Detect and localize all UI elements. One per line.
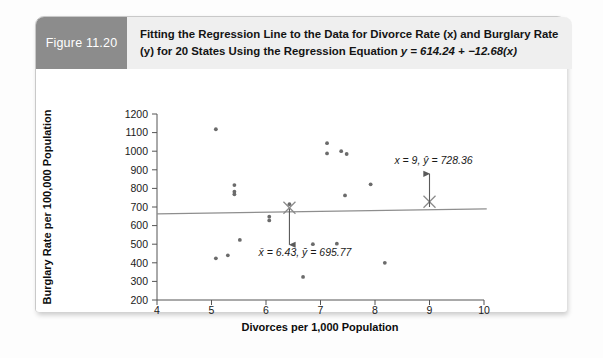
y-tick-label: 400: [130, 257, 148, 269]
y-tick-label: 800: [130, 182, 148, 194]
x-axis-ticks: 45678910: [154, 300, 490, 316]
caption-text-2: (y) for 20 States Using the Regression E…: [140, 45, 401, 57]
y-tick-label: 300: [130, 275, 148, 287]
regression-line: [157, 209, 487, 214]
data-point: [383, 261, 387, 265]
x-tick-label: 6: [263, 304, 269, 316]
data-point: [214, 256, 218, 260]
mean-annotation-x: x̄ = 6.43,: [258, 246, 300, 258]
prediction-annotation-x: x = 9,: [393, 154, 420, 166]
x-tick-label: 4: [154, 304, 160, 316]
caption-line-2: (y) for 20 States Using the Regression E…: [140, 43, 558, 60]
data-point: [343, 194, 347, 198]
regression-line-path: [157, 209, 487, 214]
caption-text-1: Fitting the Regression Line to the Data …: [140, 28, 558, 40]
scatter-plot: 200300400500600700800900100011001200 456…: [36, 69, 567, 337]
y-axis-ticks: 200300400500600700800900100011001200: [125, 108, 157, 306]
x-tick-label: 8: [372, 304, 378, 316]
figure-number-badge: Figure 11.20: [36, 17, 127, 69]
data-point: [301, 275, 305, 279]
page-background: Figure 11.20 Fitting the Regression Line…: [0, 0, 603, 358]
mean-annotation-label: x̄ = 6.43, ȳ = 695.77: [258, 246, 353, 258]
x-tick-label: 7: [318, 304, 324, 316]
figure-card: Figure 11.20 Fitting the Regression Line…: [35, 16, 566, 312]
data-point: [369, 182, 373, 186]
data-point: [238, 238, 242, 242]
prediction-annotation-y: ŷ = 728.36: [420, 154, 472, 166]
y-tick-label: 500: [130, 238, 148, 250]
y-tick-label: 200: [130, 294, 148, 306]
y-tick-label: 1100: [125, 126, 148, 138]
y-tick-label: 1200: [125, 108, 149, 120]
mean-annotation-y: ȳ = 695.77: [299, 246, 352, 258]
data-point: [267, 215, 271, 219]
data-point: [325, 152, 329, 156]
x-tick-label: 9: [427, 304, 433, 316]
y-tick-label: 900: [130, 164, 148, 176]
caption-equation: y = 614.24 + −12.68(x): [401, 45, 517, 57]
figure-number-label: Figure 11.20: [46, 36, 118, 50]
x-tick-label: 10: [478, 304, 490, 316]
data-point: [345, 152, 349, 156]
y-tick-label: 1000: [125, 145, 149, 157]
figure-caption: Fitting the Regression Line to the Data …: [127, 17, 572, 69]
y-tick-label: 600: [130, 219, 148, 231]
y-tick-label: 700: [130, 201, 148, 213]
data-point: [339, 149, 343, 153]
figure-header: Figure 11.20 Fitting the Regression Line…: [36, 17, 567, 69]
x-axis-title: Divorces per 1,000 Population: [241, 321, 398, 333]
data-point: [325, 141, 329, 145]
data-point: [214, 127, 218, 131]
prediction-annotation-label: x = 9, ŷ = 728.36: [393, 154, 472, 166]
data-point: [267, 218, 271, 222]
caption-line-1: Fitting the Regression Line to the Data …: [140, 26, 558, 43]
x-tick-label: 5: [209, 304, 215, 316]
data-point: [232, 192, 236, 196]
data-point: [232, 183, 236, 187]
data-point: [226, 253, 230, 257]
y-axis-title: Burglary Rate per 100,000 Population: [41, 109, 53, 304]
plot-panel: 200300400500600700800900100011001200 456…: [36, 69, 567, 312]
